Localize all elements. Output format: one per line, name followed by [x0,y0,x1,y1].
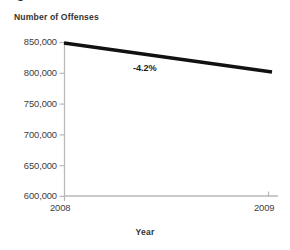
y-tick-label-600000: 600,000 [24,191,57,201]
y-axis-ticks [60,43,65,197]
x-axis-title: Year [0,227,290,237]
y-tick-label-650000: 650,000 [24,161,57,171]
y-tick-label-700000: 700,000 [24,130,57,140]
x-tick-label-2009: 2009 [254,203,274,213]
x-tick-label-2008: 2008 [50,203,70,213]
y-tick-label-850000: 850,000 [24,37,57,47]
chart-page: s Number of Offenses 850,000 800,000 750… [0,0,290,250]
y-tick-label-800000: 800,000 [24,68,57,78]
percent-change-annotation: -4.2% [133,63,157,73]
y-tick-label-750000: 750,000 [24,99,57,109]
series-line-number-of-offenses [64,43,272,72]
